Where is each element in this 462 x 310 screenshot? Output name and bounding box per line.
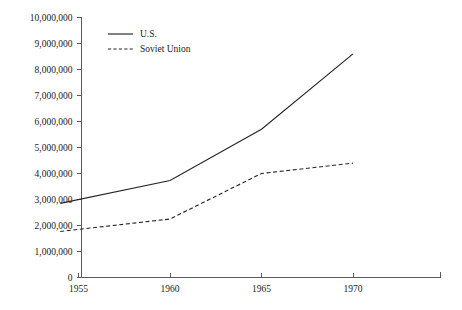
legend-label: Soviet Union	[140, 44, 191, 54]
x-tick-label: 1965	[252, 284, 271, 294]
data-series-group	[60, 54, 353, 232]
y-tick-label: 1,000,000	[35, 247, 73, 257]
legend-label: U.S.	[140, 29, 157, 39]
y-axis-ticks	[77, 18, 82, 278]
line-chart: 01,000,0002,000,0003,000,0004,000,0005,0…	[0, 0, 462, 310]
y-tick-label: 6,000,000	[35, 117, 73, 127]
y-tick-label: 2,000,000	[35, 221, 73, 231]
chart-plot-area: 01,000,0002,000,0003,000,0004,000,0005,0…	[0, 0, 462, 310]
series-line-soviet-union	[60, 163, 353, 231]
series-line-u-s	[60, 54, 353, 204]
y-tick-label: 8,000,000	[35, 65, 73, 75]
y-tick-label: 5,000,000	[35, 143, 73, 153]
x-tick-label: 1960	[161, 284, 180, 294]
x-tick-label: 1955	[69, 284, 88, 294]
x-tick-label: 1970	[344, 284, 363, 294]
y-tick-label: 9,000,000	[35, 39, 73, 49]
y-tick-label: 4,000,000	[35, 169, 73, 179]
x-axis-tick-labels: 1955196019651970	[69, 284, 363, 294]
x-axis-ticks	[79, 273, 354, 278]
y-tick-label: 0	[68, 273, 73, 283]
y-tick-label: 10,000,000	[30, 13, 73, 23]
y-tick-label: 7,000,000	[35, 91, 73, 101]
y-axis-tick-labels: 01,000,0002,000,0003,000,0004,000,0005,0…	[30, 13, 73, 283]
y-tick-label: 3,000,000	[35, 195, 73, 205]
chart-legend: U.S.Soviet Union	[108, 29, 191, 54]
